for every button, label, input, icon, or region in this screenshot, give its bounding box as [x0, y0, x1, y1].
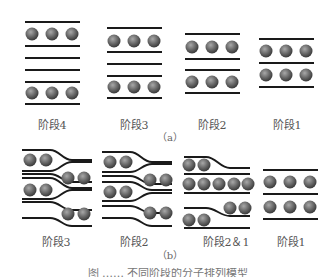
panel-b-stage3-label: 阶段3	[42, 233, 71, 249]
panel-b-stage2and1-label: 阶段2＆1	[203, 233, 250, 249]
panel-a-caption: （a）	[157, 129, 183, 144]
panel-a-stage1-label: 阶段1	[273, 116, 302, 132]
panel-b-stage1-label: 阶段1	[277, 233, 306, 249]
panel-b-caption: （b）	[157, 247, 183, 262]
panel-a-stage4-label: 阶段4	[38, 116, 67, 132]
figure-caption: 图 …… 不同阶段的分子排列模型	[0, 268, 336, 277]
panel-b-stage2-balls	[104, 156, 173, 220]
panel-a-stage2-label: 阶段2	[198, 116, 227, 132]
panel-a-stage2-balls	[186, 41, 239, 89]
panel-b-stage2-label: 阶段2	[120, 233, 149, 249]
panel-a-stage3-label: 阶段3	[120, 116, 149, 132]
panel-a-stage4-balls	[26, 28, 79, 100]
